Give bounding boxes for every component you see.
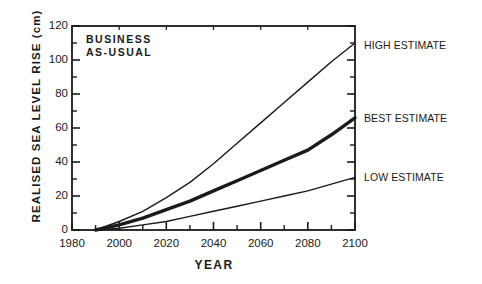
y-major-ticks: [72, 26, 80, 230]
scenario-line-2: AS-USUAL: [86, 46, 152, 59]
series-label-high-estimate: HIGH ESTIMATE: [364, 40, 446, 51]
series-label-low-estimate: LOW ESTIMATE: [364, 172, 444, 183]
right-axis-major-ticks: [347, 26, 355, 230]
chart-figure: REALISED SEA LEVEL RISE (cm) YEAR 120 10…: [0, 0, 482, 284]
series-line-best-estimate: [96, 118, 355, 230]
series-line-high-estimate: [96, 43, 355, 230]
scenario-annotation: BUSINESS AS-USUAL: [86, 33, 152, 59]
series-label-best-estimate: BEST ESTIMATE: [364, 113, 447, 124]
scenario-line-1: BUSINESS: [86, 33, 152, 46]
